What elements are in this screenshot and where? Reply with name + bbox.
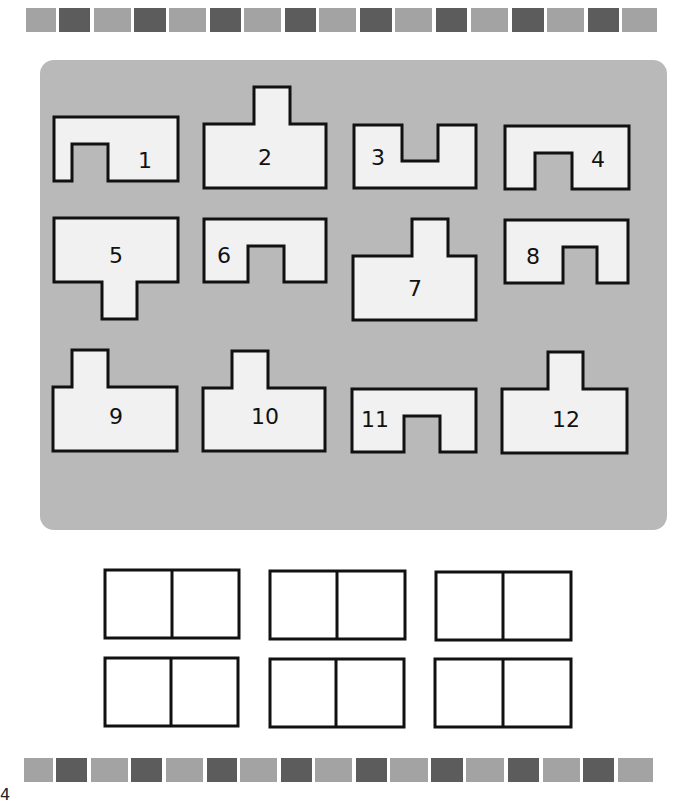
answer-box-2[interactable] (270, 571, 405, 639)
strip-square-dark (131, 758, 162, 782)
strip-square-dark (431, 758, 463, 782)
strip-square-light (543, 758, 580, 782)
strip-square-dark (56, 758, 87, 782)
strip-square-light (618, 758, 653, 782)
answer-box-1[interactable] (105, 570, 239, 638)
answer-box-6[interactable] (435, 659, 571, 727)
answer-box-3[interactable] (436, 572, 571, 640)
answer-boxes (0, 0, 679, 805)
answer-box-5[interactable] (270, 659, 404, 727)
answer-box-4[interactable] (105, 658, 238, 726)
bottom-decorative-strip (0, 758, 679, 782)
page-number: 4 (0, 785, 10, 804)
strip-square-light (91, 758, 128, 782)
strip-square-dark (207, 758, 237, 782)
strip-square-light (24, 758, 53, 782)
strip-square-light (390, 758, 428, 782)
strip-square-light (466, 758, 504, 782)
strip-square-dark (583, 758, 614, 782)
strip-square-dark (356, 758, 387, 782)
strip-square-dark (508, 758, 539, 782)
strip-square-dark (281, 758, 312, 782)
strip-square-light (315, 758, 352, 782)
strip-square-light (166, 758, 203, 782)
strip-square-light (240, 758, 277, 782)
